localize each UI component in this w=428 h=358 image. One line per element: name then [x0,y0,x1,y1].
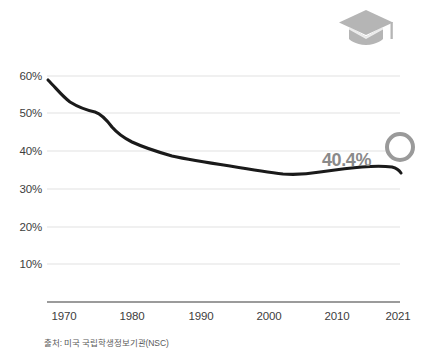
y-tick-40: 40% [2,146,42,158]
x-tick-1970: 1970 [52,311,77,323]
x-tick-1980: 1980 [120,311,145,323]
x-tick-2021: 2021 [386,311,411,323]
plot-area [0,0,428,358]
x-tick-2010: 2010 [325,311,350,323]
x-tick-1990: 1990 [189,311,214,323]
source-note: 출처: 미국 국립학생정보기관(NSC) [44,339,169,348]
y-tick-20: 20% [2,222,42,234]
x-axis-labels: 1970 1980 1990 2000 2010 2021 [0,311,428,327]
y-tick-30: 30% [2,184,42,196]
y-tick-10: 10% [2,259,42,271]
y-tick-50: 50% [2,108,42,120]
value-callout-label: 40.4% [322,151,371,169]
chart-container: 60% 50% 40% 30% 20% 10% 1970 1980 1990 2… [0,0,428,358]
y-tick-60: 60% [2,71,42,83]
x-tick-2000: 2000 [257,311,282,323]
ring-marker [387,134,413,160]
y-axis-labels: 60% 50% 40% 30% 20% 10% [0,0,42,358]
